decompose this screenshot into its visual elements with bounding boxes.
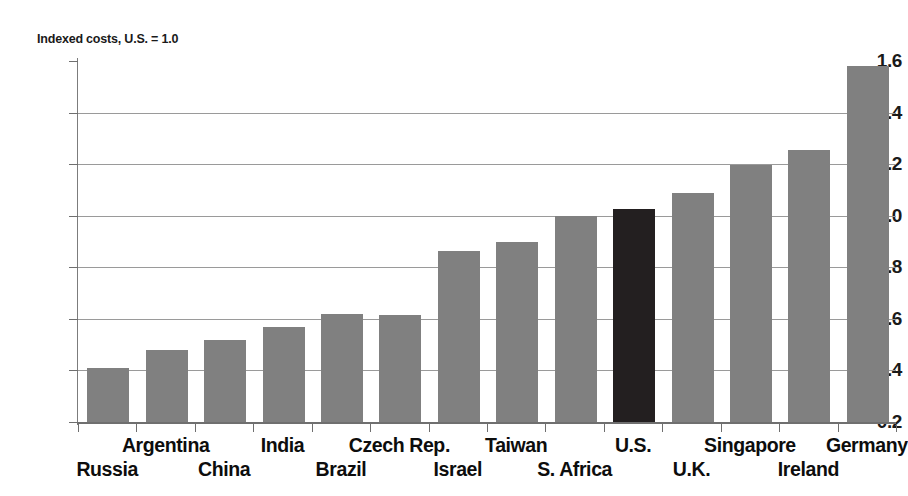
x-axis-tick — [312, 424, 313, 432]
x-axis-tick — [370, 424, 371, 432]
x-axis-tick — [136, 424, 137, 432]
bar-czech-rep — [379, 315, 421, 422]
bar-s-africa — [555, 216, 597, 422]
y-axis-tick — [69, 113, 78, 114]
gridline — [78, 267, 896, 268]
y-axis-tick — [69, 267, 78, 268]
x-axis-tick — [487, 424, 488, 432]
x-axis-label-germany: Germany — [826, 434, 908, 457]
y-axis-tick — [69, 61, 78, 62]
x-axis-label-u-s: U.S. — [615, 434, 651, 457]
x-axis-tick — [545, 424, 546, 432]
plot-area — [78, 61, 896, 422]
x-axis-label-israel: Israel — [434, 458, 483, 481]
x-axis-label-china: China — [198, 458, 250, 481]
x-axis-label-s-africa: S. Africa — [537, 458, 612, 481]
bar-u-s — [613, 209, 655, 422]
bar-argentina — [146, 350, 188, 422]
gridline — [78, 370, 896, 371]
bar-taiwan — [496, 242, 538, 423]
x-axis-tick — [253, 424, 254, 432]
x-axis-label-brazil: Brazil — [316, 458, 367, 481]
y-axis-tick — [69, 164, 78, 165]
chart-axis-title: Indexed costs, U.S. = 1.0 — [37, 32, 178, 46]
bar-germany — [847, 66, 889, 422]
x-axis-tick — [896, 424, 897, 432]
bar-singapore — [730, 165, 772, 422]
x-axis-tick — [604, 424, 605, 432]
x-axis-label-singapore: Singapore — [704, 434, 796, 457]
gridline — [78, 216, 896, 217]
gridline — [78, 113, 896, 114]
bar-u-k — [672, 193, 714, 422]
y-axis-tick — [69, 216, 78, 217]
bar-china — [204, 340, 246, 423]
bar-brazil — [321, 314, 363, 422]
x-axis-label-czech-rep: Czech Rep. — [349, 434, 450, 457]
x-axis-tick — [78, 424, 79, 432]
x-axis-label-russia: Russia — [76, 458, 138, 481]
y-axis-tick — [69, 319, 78, 320]
x-axis-tick — [838, 424, 839, 432]
gridline — [78, 319, 896, 320]
bar-ireland — [788, 150, 830, 422]
x-axis-label-u-k: U.K. — [673, 458, 710, 481]
gridline — [78, 164, 896, 165]
x-axis-tick — [779, 424, 780, 432]
x-axis-tick — [195, 424, 196, 432]
bar-israel — [438, 251, 480, 422]
x-axis-tick — [429, 424, 430, 432]
x-axis-label-argentina: Argentina — [122, 434, 209, 457]
bar-russia — [87, 368, 129, 422]
x-axis-label-taiwan: Taiwan — [485, 434, 547, 457]
bar-india — [263, 327, 305, 422]
x-axis-label-ireland: Ireland — [778, 458, 839, 481]
x-axis-tick — [662, 424, 663, 432]
x-axis-tick — [721, 424, 722, 432]
y-axis-tick — [69, 370, 78, 371]
x-axis-label-india: India — [261, 434, 305, 457]
